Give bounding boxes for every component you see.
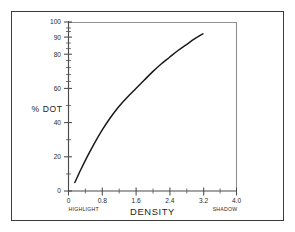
x-tick-label-2-4: 2.4 <box>165 197 174 204</box>
x-tick-label-3-2: 3.2 <box>199 197 208 204</box>
x-tick-label-4-0: 4.0 <box>232 197 241 204</box>
y-tick-label-60: 60 <box>54 85 62 92</box>
x-axis-title: DENSITY <box>130 206 175 217</box>
chart-canvas: 0 20 40 60 80 90 100 0 0.8 <box>0 0 295 232</box>
plot-area-background <box>68 22 237 191</box>
y-axis-title: % DOT <box>31 104 62 114</box>
y-tick-label-40: 40 <box>54 119 62 126</box>
y-tick-label-80: 80 <box>54 51 62 58</box>
x-axis-tick-labels: 0 0.8 1.6 2.4 3.2 4.0 <box>67 197 242 204</box>
y-tick-label-20: 20 <box>54 153 62 160</box>
x-tick-label-0: 0 <box>67 197 71 204</box>
y-tick-label-90: 90 <box>54 34 62 41</box>
shadow-annotation-label: SHADOW <box>213 206 238 212</box>
highlight-annotation-label: HIGHLIGHT <box>69 206 100 212</box>
y-tick-label-100: 100 <box>50 18 61 25</box>
x-tick-label-1-6: 1.6 <box>132 197 141 204</box>
y-tick-label-0: 0 <box>57 187 61 194</box>
figure-root: 0 20 40 60 80 90 100 0 0.8 <box>0 0 295 232</box>
x-tick-label-0-8: 0.8 <box>98 197 107 204</box>
